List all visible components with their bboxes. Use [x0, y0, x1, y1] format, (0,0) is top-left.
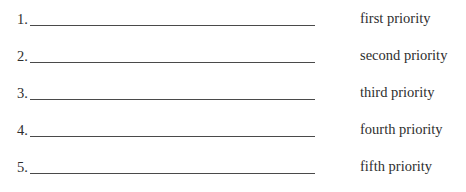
priority-row-2: 2. second priority	[0, 42, 466, 66]
item-number: 3.	[17, 86, 28, 101]
priority-label: fifth priority	[360, 159, 432, 174]
blank-line-3[interactable]	[30, 99, 315, 100]
priority-label: fourth priority	[360, 122, 443, 137]
item-number: 1.	[17, 12, 28, 27]
priority-row-1: 1. first priority	[0, 5, 466, 29]
priority-label: second priority	[360, 48, 447, 63]
priority-row-4: 4. fourth priority	[0, 116, 466, 140]
priority-row-5: 5. fifth priority	[0, 153, 466, 177]
item-number: 2.	[17, 49, 28, 64]
item-number: 5.	[17, 160, 28, 175]
blank-line-1[interactable]	[30, 25, 315, 26]
blank-line-2[interactable]	[30, 62, 315, 63]
blank-line-4[interactable]	[30, 136, 315, 137]
blank-line-5[interactable]	[30, 173, 315, 174]
priority-row-3: 3. third priority	[0, 79, 466, 103]
item-number: 4.	[17, 123, 28, 138]
priority-label: third priority	[360, 85, 435, 100]
priority-label: first priority	[360, 11, 430, 26]
